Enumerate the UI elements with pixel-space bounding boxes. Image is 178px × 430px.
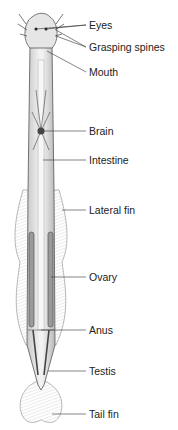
intestine	[38, 60, 44, 330]
label-ovary: Ovary	[89, 271, 117, 283]
label-intestine: Intestine	[89, 154, 129, 166]
label-testis: Testis	[89, 365, 116, 377]
label-grasping-spines: Grasping spines	[89, 41, 165, 53]
label-mouth: Mouth	[89, 66, 118, 78]
label-brain: Brain	[89, 125, 114, 137]
ovary-left	[29, 232, 34, 327]
label-eyes: Eyes	[89, 19, 112, 31]
label-tail-fin: Tail fin	[89, 408, 119, 420]
label-anus: Anus	[89, 324, 113, 336]
label-lateral-fin: Lateral fin	[89, 204, 135, 216]
ovary-right	[48, 232, 53, 327]
head	[25, 13, 57, 48]
